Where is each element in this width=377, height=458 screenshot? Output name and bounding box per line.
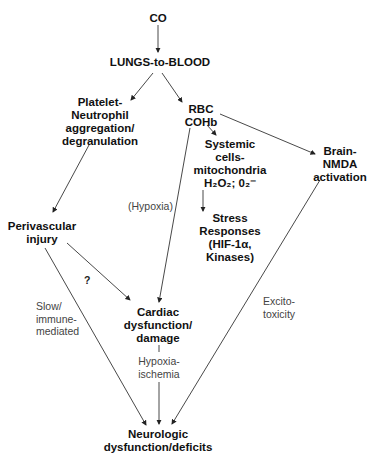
node-perivascular-injury: Perivascular injury xyxy=(8,220,76,246)
node-neurologic-deficits: Neurologic dysfunction/deficits xyxy=(104,428,213,454)
node-platelet-neutrophil: Platelet- Neutrophil aggregation/ degran… xyxy=(62,96,138,148)
node-co: CO xyxy=(149,12,166,25)
node-cardiac-dysfunction: Cardiac dysfunction/ damage xyxy=(124,306,192,345)
node-systemic-cells: Systemic cells- mitochondria xyxy=(194,138,267,177)
edge-rbc-cardiac xyxy=(159,128,190,302)
node-stress-responses: Stress Responses (HIF-1α, Kinases) xyxy=(199,212,260,264)
label-hypoxia: (Hypoxia) xyxy=(128,200,173,213)
label-hypoxia-ischemia: Hypoxia- ischemia xyxy=(138,355,179,380)
node-brain-nmda: Brain- NMDA activation xyxy=(313,145,367,184)
edge-platelet-perivascular xyxy=(53,145,89,212)
node-ros: H₂O₂; 0₂⁻ xyxy=(204,177,256,190)
edge-perivascular-cardiac xyxy=(67,243,130,300)
label-excitotoxicity: Excito- toxicity xyxy=(263,295,295,320)
label-question: ? xyxy=(84,274,90,287)
edge-lungs-rbc xyxy=(162,73,182,102)
node-lungs-to-blood: LUNGS-to-BLOOD xyxy=(110,56,210,69)
node-rbc-cohb: RBC COHb xyxy=(185,103,218,129)
label-slow-immune: Slow/ immune- mediated xyxy=(36,300,79,338)
